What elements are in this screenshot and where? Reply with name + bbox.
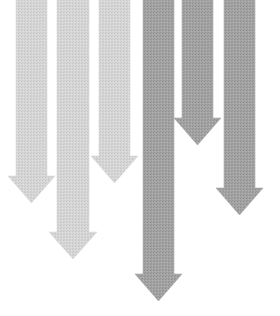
down-arrow-icon [135, 0, 182, 301]
arrows-illustration: Six downward-pointing arrows of varying … [0, 0, 280, 316]
down-arrow-icon [91, 0, 138, 183]
down-arrow-icon [174, 0, 221, 145]
arrows-graphic [0, 0, 280, 316]
down-arrow-icon [8, 0, 55, 203]
down-arrow-icon [49, 0, 97, 259]
down-arrow-icon [216, 0, 263, 215]
